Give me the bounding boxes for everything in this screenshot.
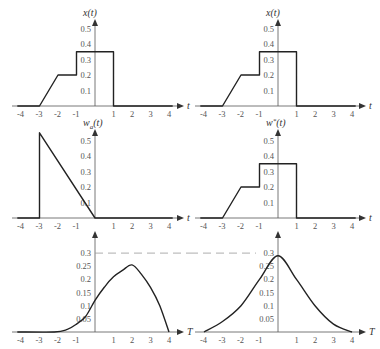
x-tick-label: 1 bbox=[112, 335, 116, 345]
x-tick-label: -3 bbox=[219, 109, 226, 119]
y-tick-label: 0.3 bbox=[80, 248, 91, 258]
x-tick-label: -1 bbox=[256, 221, 263, 231]
x-tick-label: 1 bbox=[112, 109, 116, 119]
y-tick-label: 0.5 bbox=[263, 24, 274, 34]
x-tick-label: -2 bbox=[237, 335, 244, 345]
x-tick-label: -3 bbox=[219, 221, 226, 231]
y-arrow-icon bbox=[275, 231, 281, 238]
x-tick-label: 4 bbox=[167, 109, 172, 119]
y-tick-label: 0.5 bbox=[263, 136, 274, 146]
x-axis-label: t bbox=[187, 100, 190, 111]
x-arrow-icon bbox=[177, 215, 184, 221]
x-tick-label: 1 bbox=[112, 221, 116, 231]
panel-bottom-right: T-4-3-2-112340.050.10.150.20.250.3 bbox=[190, 231, 376, 345]
x-axis-label: t bbox=[369, 100, 372, 111]
y-tick-label: 0.1 bbox=[263, 198, 274, 208]
x-tick-label: 1 bbox=[295, 221, 299, 231]
y-tick-label: 0.05 bbox=[259, 314, 274, 324]
x-arrow-icon bbox=[177, 329, 184, 335]
y-arrow-icon bbox=[275, 19, 281, 26]
x-arrow-icon bbox=[177, 103, 184, 109]
x-tick-label: 2 bbox=[130, 335, 134, 345]
x-tick-label: -2 bbox=[237, 109, 244, 119]
x-tick-label: -4 bbox=[200, 109, 208, 119]
y-arrow-icon bbox=[275, 129, 281, 136]
y-tick-label: 0.4 bbox=[80, 151, 91, 161]
y-tick-label: 0.4 bbox=[263, 151, 274, 161]
x-axis-label: t bbox=[369, 212, 372, 223]
x-tick-label: 4 bbox=[167, 221, 172, 231]
y-tick-label: 0.1 bbox=[263, 86, 274, 96]
panel-top-right: tx(t)-4-3-2-112340.10.20.30.40.5 bbox=[195, 7, 372, 119]
y-tick-label: 0.2 bbox=[80, 274, 91, 284]
x-arrow-icon bbox=[359, 103, 366, 109]
panel-bottom-left: T-4-3-2-112340.050.10.150.20.250.3 bbox=[12, 231, 194, 345]
x-tick-label: -4 bbox=[17, 109, 25, 119]
x-tick-label: 3 bbox=[149, 109, 153, 119]
x-tick-label: -3 bbox=[219, 335, 226, 345]
x-tick-label: 2 bbox=[313, 335, 317, 345]
x-tick-label: 4 bbox=[350, 109, 355, 119]
x-tick-label: -2 bbox=[54, 109, 61, 119]
x-tick-label: 2 bbox=[130, 109, 134, 119]
y-tick-label: 0.2 bbox=[263, 70, 274, 80]
y-tick-label: 0.2 bbox=[263, 274, 274, 284]
y-tick-label: 0.3 bbox=[80, 167, 91, 177]
x-tick-label: -1 bbox=[73, 221, 80, 231]
y-axis-label: x(t) bbox=[265, 7, 281, 19]
x-tick-label: -4 bbox=[200, 221, 208, 231]
data-curve bbox=[17, 265, 169, 332]
x-tick-label: -2 bbox=[54, 335, 61, 345]
x-tick-label: 2 bbox=[313, 109, 317, 119]
x-tick-label: -1 bbox=[256, 335, 263, 345]
y-tick-label: 0.3 bbox=[263, 167, 274, 177]
y-tick-label: 0.15 bbox=[259, 288, 274, 298]
x-tick-label: -1 bbox=[73, 109, 80, 119]
y-tick-label: 0.1 bbox=[263, 301, 274, 311]
y-arrow-icon bbox=[92, 19, 98, 26]
x-tick-label: 4 bbox=[350, 221, 355, 231]
y-tick-label: 0.15 bbox=[76, 288, 91, 298]
y-tick-label: 0.1 bbox=[80, 86, 91, 96]
y-tick-label: 0.25 bbox=[76, 261, 91, 271]
y-tick-label: 0.5 bbox=[80, 136, 91, 146]
x-tick-label: 2 bbox=[313, 221, 317, 231]
x-arrow-icon bbox=[359, 215, 366, 221]
x-tick-label: 1 bbox=[295, 335, 299, 345]
x-tick-label: -4 bbox=[200, 335, 208, 345]
y-tick-label: 0.2 bbox=[80, 182, 91, 192]
y-tick-label: 0.4 bbox=[263, 39, 274, 49]
y-tick-label: 0.3 bbox=[263, 248, 274, 258]
x-tick-label: -3 bbox=[36, 335, 43, 345]
x-tick-label: -4 bbox=[17, 221, 25, 231]
x-tick-label: -4 bbox=[17, 335, 25, 345]
x-tick-label: -1 bbox=[256, 109, 263, 119]
x-axis-label: t bbox=[187, 212, 190, 223]
x-tick-label: 3 bbox=[332, 221, 336, 231]
x-axis-label: T bbox=[369, 326, 376, 337]
panel-middle-right: tw*(t)-4-3-2-112340.10.20.30.40.5 bbox=[195, 117, 372, 231]
panel-middle-left: twa(t)-4-3-2-112340.10.20.30.40.5 bbox=[12, 117, 190, 231]
x-axis-label: T bbox=[187, 326, 194, 337]
x-tick-label: 2 bbox=[130, 221, 134, 231]
y-tick-label: 0.3 bbox=[80, 55, 91, 65]
y-tick-label: 0.25 bbox=[259, 261, 274, 271]
x-tick-label: 1 bbox=[295, 109, 299, 119]
y-axis-label: w*(t) bbox=[266, 117, 286, 129]
panel-top-left: tx(t)-4-3-2-112340.10.20.30.40.5 bbox=[12, 7, 190, 119]
x-tick-label: -3 bbox=[36, 109, 43, 119]
y-tick-label: 0.3 bbox=[263, 55, 274, 65]
x-tick-label: -2 bbox=[237, 221, 244, 231]
x-tick-label: 4 bbox=[350, 335, 355, 345]
x-tick-label: 3 bbox=[149, 335, 153, 345]
x-arrow-icon bbox=[359, 329, 366, 335]
y-tick-label: 0.5 bbox=[80, 24, 91, 34]
x-tick-label: 3 bbox=[332, 335, 336, 345]
y-axis-label: x(t) bbox=[82, 7, 98, 19]
y-tick-label: 0.2 bbox=[263, 182, 274, 192]
x-tick-label: -1 bbox=[73, 335, 80, 345]
x-tick-label: 3 bbox=[332, 109, 336, 119]
chart-grid: tx(t)-4-3-2-112340.10.20.30.40.5tx(t)-4-… bbox=[0, 0, 380, 349]
x-tick-label: 3 bbox=[149, 221, 153, 231]
y-tick-label: 0.2 bbox=[80, 70, 91, 80]
